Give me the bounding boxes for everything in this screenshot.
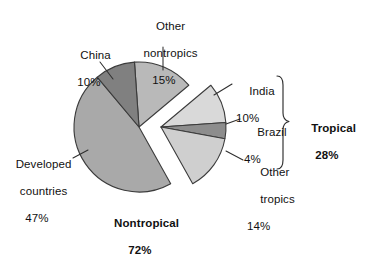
group-label-tropical-name: Tropical [311,122,356,134]
label-other-nontropics: Other nontropics 15% [128,6,200,114]
group-label-nontropical: Nontropical 72% [93,203,187,258]
label-china: China 10% [60,35,118,116]
leader-other-tropics [226,151,243,160]
label-other-nontropics-value: 15% [128,74,200,88]
label-other-tropics-line2: tropics [260,193,295,205]
label-developed-countries-line2: countries [20,185,68,197]
leader-india [214,84,232,95]
group-label-tropical-value: 28% [294,149,360,163]
label-india-name: India [249,85,274,97]
label-other-tropics-value: 14% [247,220,303,234]
group-label-nontropical-value: 72% [93,244,187,258]
label-developed-countries: Developed countries 47% [1,144,73,252]
label-china-name: China [80,49,111,61]
label-developed-countries-line1: Developed [16,158,72,170]
label-developed-countries-value: 47% [1,212,73,226]
label-other-nontropics-line1: Other [156,20,185,32]
group-label-tropical: Tropical 28% [294,108,360,189]
label-other-nontropics-line2: nontropics [144,47,198,59]
label-china-value: 10% [60,76,118,90]
label-brazil-name: Brazil [257,126,286,138]
label-other-tropics-line1: Other [260,166,289,178]
group-label-nontropical-name: Nontropical [114,217,179,229]
